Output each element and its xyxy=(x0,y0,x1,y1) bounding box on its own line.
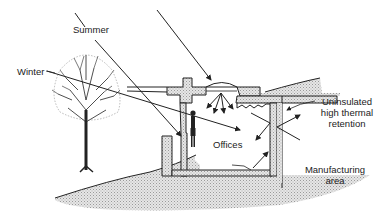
diagram-canvas: Summer Winter Offices Uninsulated high t… xyxy=(0,0,386,215)
skylight xyxy=(206,83,237,88)
summer-label: Summer xyxy=(73,24,109,35)
uninsulated-label: Uninsulated high thermal retention xyxy=(316,96,378,129)
summer-ray-skylight xyxy=(157,10,211,80)
tree xyxy=(52,55,120,172)
manufacturing-area-label: Manufacturing area xyxy=(300,164,370,186)
offices-label: Offices xyxy=(213,139,242,150)
skylight-rays xyxy=(207,93,233,113)
winter-label: Winter xyxy=(17,66,44,77)
